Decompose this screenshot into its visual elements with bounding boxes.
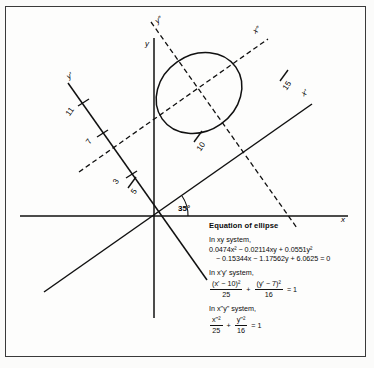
fraction-ydoubleprime-numerator: y"² bbox=[235, 315, 248, 326]
caption-system-xpyp: In x'y' system, bbox=[209, 268, 365, 277]
fraction-xdoubleprime-numerator: x"² bbox=[210, 315, 223, 326]
equation-xy-line1: 0.0474x² − 0.02114xy + 0.0551y² bbox=[209, 245, 365, 254]
fraction-xdoubleprime: x"² 25 bbox=[210, 315, 223, 335]
fraction-xprime: (x' − 10)² 25 bbox=[210, 279, 242, 299]
fraction-yprime: (y' − 7)² 16 bbox=[255, 279, 283, 299]
caption-system-xy: In xy system, bbox=[209, 235, 365, 244]
equation-xpyp: (x' − 10)² 25 + (y' − 7)² 16 = 1 bbox=[209, 279, 365, 299]
fraction-ydoubleprime-denominator: 16 bbox=[237, 326, 245, 336]
caption-system-xppypp: In x"y" system, bbox=[209, 304, 365, 313]
equation-xppypp: x"² 25 + y"² 16 = 1 bbox=[209, 315, 365, 335]
equation-xy-line2: − 0.15344x − 1.17562y + 6.0625 = 0 bbox=[209, 254, 365, 263]
fraction-xdoubleprime-denominator: 25 bbox=[212, 326, 220, 336]
fraction-yprime-denominator: 16 bbox=[265, 290, 273, 300]
equals-one-xpyp: = 1 bbox=[287, 285, 297, 294]
fraction-xprime-numerator: (x' − 10)² bbox=[210, 279, 242, 290]
equals-one-xppypp: = 1 bbox=[251, 321, 261, 330]
caption-title: Equation of ellipse bbox=[209, 221, 365, 230]
plus-sign-xppypp: + bbox=[227, 321, 231, 330]
figure-container: x y x′ y′ x″ y″ 5 10 15 3 7 11 35° Equat… bbox=[0, 0, 374, 368]
fraction-yprime-numerator: (y' − 7)² bbox=[255, 279, 283, 290]
fraction-ydoubleprime: y"² 16 bbox=[235, 315, 248, 335]
plus-sign-xpyp: + bbox=[246, 285, 250, 294]
caption-block: Equation of ellipse In xy system, 0.0474… bbox=[209, 221, 365, 335]
fraction-xprime-denominator: 25 bbox=[222, 290, 230, 300]
